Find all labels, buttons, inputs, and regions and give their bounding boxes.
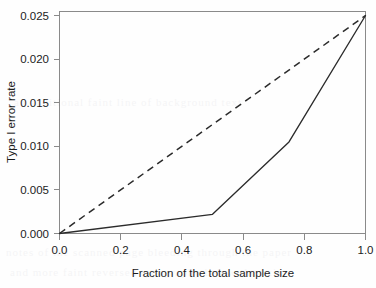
series-solid-curve bbox=[60, 16, 366, 234]
y-tick-label: 0.000 bbox=[20, 228, 49, 240]
x-tick-label: 1.0 bbox=[358, 244, 374, 256]
series-dashed-reference bbox=[60, 16, 366, 234]
x-axis-tick-labels: 0.0 0.2 0.4 0.6 0.8 1.0 bbox=[52, 244, 374, 256]
x-tick-label: 0.6 bbox=[235, 244, 251, 256]
y-axis-ticks bbox=[54, 16, 60, 234]
x-tick-label: 0.0 bbox=[52, 244, 68, 256]
x-axis-ticks bbox=[60, 234, 366, 240]
x-tick-label: 0.8 bbox=[296, 244, 312, 256]
y-tick-label: 0.025 bbox=[20, 10, 49, 22]
y-tick-label: 0.010 bbox=[20, 140, 49, 152]
line-chart: 0.000 0.005 0.010 0.015 0.020 0.025 0.0 … bbox=[0, 0, 376, 288]
x-axis-title: Fraction of the total sample size bbox=[132, 267, 294, 279]
chart-figure: notes of the scanned page bleeding throu… bbox=[0, 0, 376, 288]
plot-frame bbox=[60, 12, 366, 234]
y-tick-label: 0.020 bbox=[20, 53, 49, 65]
y-axis-title: Type I error rate bbox=[5, 81, 17, 163]
y-tick-label: 0.005 bbox=[20, 184, 49, 196]
y-axis-tick-labels: 0.000 0.005 0.010 0.015 0.020 0.025 bbox=[20, 10, 49, 240]
y-tick-label: 0.015 bbox=[20, 97, 49, 109]
x-tick-label: 0.2 bbox=[113, 244, 129, 256]
x-tick-label: 0.4 bbox=[174, 244, 191, 256]
